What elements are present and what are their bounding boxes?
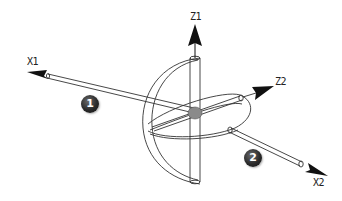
center-joint [188,107,202,119]
axis-label-x1: X1 [27,56,38,67]
gimbal-axis-diagram [0,0,342,201]
x1-shaft [46,74,194,113]
axis-label-z2: Z2 [275,76,286,87]
x2-arrow-icon [305,163,328,176]
callout-badge-1: 1 [81,95,99,113]
x2-shaft [228,127,303,167]
axis-label-z1: Z1 [190,11,201,22]
callout-badge-2: 2 [244,149,262,167]
axis-label-x2: X2 [313,177,324,188]
x1-arrow-icon [27,70,48,79]
z1-arrow-icon [188,24,202,46]
z1-shaft [190,56,200,184]
